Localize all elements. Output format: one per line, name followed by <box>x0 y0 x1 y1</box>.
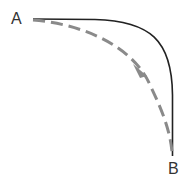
dashed-arrow-curve <box>33 20 172 152</box>
diagram-canvas <box>0 0 188 183</box>
